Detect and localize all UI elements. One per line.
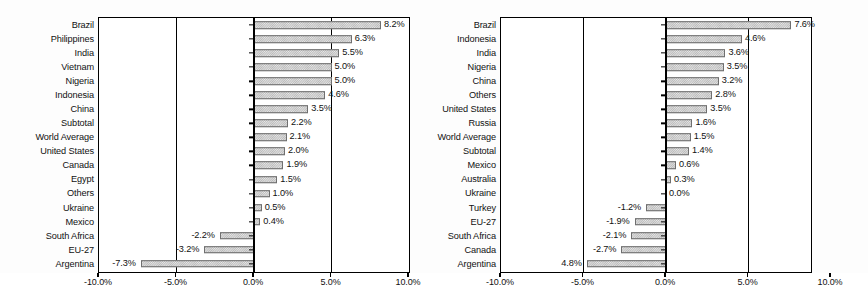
bar-value-label: 2.8% <box>712 91 736 100</box>
bar <box>587 260 666 268</box>
category-tick <box>661 207 666 208</box>
category-label: Brazil <box>408 19 500 33</box>
category-label: Mexico <box>6 215 98 229</box>
category-tick <box>249 38 254 39</box>
x-tick-label: 10.0% <box>817 278 842 287</box>
zero-axis-line <box>665 18 666 272</box>
bar <box>254 49 339 57</box>
bar <box>254 134 287 142</box>
category-tick <box>249 263 254 264</box>
bar-value-label: 6.3% <box>352 34 376 43</box>
category-tick <box>661 52 666 53</box>
bar <box>666 162 676 170</box>
bar <box>254 162 283 170</box>
bar-row: 3.6% <box>501 46 811 60</box>
category-tick <box>661 81 666 82</box>
bar-row: 0.0% <box>501 187 811 201</box>
category-label: Mexico <box>408 159 500 173</box>
category-label: India <box>6 47 98 61</box>
gridline--50 <box>583 18 584 272</box>
bar-value-label: 4.6% <box>325 91 349 100</box>
category-label: EU-27 <box>408 215 500 229</box>
bar <box>666 91 712 99</box>
x-tick-label: 5.0% <box>737 278 757 287</box>
x-tick-label: -10.0% <box>84 278 112 287</box>
bar-value-label: -2.1% <box>603 231 630 240</box>
bar-value-label: 3.2% <box>719 77 743 86</box>
bar-value-label: 4.8% <box>561 259 585 268</box>
category-tick <box>249 67 254 68</box>
category-label: Canada <box>6 159 98 173</box>
bar-row: 3.2% <box>501 74 811 88</box>
bar <box>254 176 277 184</box>
bar <box>666 106 707 114</box>
category-label: Russia <box>408 117 500 131</box>
category-tick <box>661 95 666 96</box>
bar-value-label: -2.7% <box>593 245 620 254</box>
category-label: China <box>408 75 500 89</box>
bar-row: 2.8% <box>501 88 811 102</box>
category-label: Egypt <box>6 173 98 187</box>
category-tick <box>249 249 254 250</box>
category-axis-left: BrazilPhilippinesIndiaVietnamNigeriaIndo… <box>6 19 98 272</box>
bar-row: 0.6% <box>501 158 811 172</box>
category-label: Turkey <box>408 201 500 215</box>
bar-rows-right: 7.6%4.6%3.6%3.5%3.2%2.8%3.5%1.6%1.5%1.4%… <box>501 18 811 272</box>
bar-value-label: 3.5% <box>724 63 748 72</box>
bar-value-label: 0.5% <box>262 203 286 212</box>
x-tick-label: -10.0% <box>486 278 514 287</box>
category-label: United States <box>6 145 98 159</box>
category-tick <box>661 179 666 180</box>
category-label: South Africa <box>6 229 98 243</box>
bar-value-label: 0.4% <box>260 217 284 226</box>
bar-value-label: 1.6% <box>692 119 716 128</box>
bar-row: 1.6% <box>501 116 811 130</box>
category-label: Subtotal <box>408 145 500 159</box>
bar-value-label: 2.1% <box>287 133 311 142</box>
bar-value-label: 3.6% <box>725 49 749 58</box>
category-tick <box>661 67 666 68</box>
category-tick <box>249 165 254 166</box>
category-tick <box>249 207 254 208</box>
bar-row: 3.5% <box>501 102 811 116</box>
category-label: Argentina <box>408 257 500 271</box>
bar <box>666 120 692 128</box>
bar-value-label: 1.5% <box>691 133 715 142</box>
plot-area-left: 8.2%6.3%5.5%5.0%5.0%4.6%3.5%2.2%2.1%2.0%… <box>98 17 410 273</box>
bar <box>254 35 352 43</box>
bar-row: -2.7% <box>501 243 811 257</box>
bar-row: -1.9% <box>501 215 811 229</box>
bar-value-label: 3.5% <box>707 105 731 114</box>
bar <box>254 204 262 212</box>
category-label: Others <box>408 89 500 103</box>
category-tick <box>249 95 254 96</box>
category-tick <box>249 151 254 152</box>
category-tick <box>249 137 254 138</box>
category-tick <box>661 137 666 138</box>
bar <box>254 77 332 85</box>
category-label: China <box>6 103 98 117</box>
bar-row: 1.5% <box>501 130 811 144</box>
x-tick-label: 5.0% <box>320 278 340 287</box>
bar-row: 4.8% <box>501 257 811 271</box>
bar <box>141 260 254 268</box>
bar-row: 4.6% <box>501 32 811 46</box>
category-tick <box>249 24 254 25</box>
category-label: World Average <box>408 131 500 145</box>
category-label: World Average <box>6 131 98 145</box>
category-tick <box>661 221 666 222</box>
bar-value-label: 2.0% <box>285 147 309 156</box>
bar <box>666 77 719 85</box>
x-tick-label: -5.0% <box>571 278 594 287</box>
bar <box>666 35 742 43</box>
bar-value-label: 5.5% <box>339 49 363 58</box>
bar <box>254 106 308 114</box>
bar-row: -1.2% <box>501 201 811 215</box>
bar <box>666 49 725 57</box>
x-tick-label: 10.0% <box>395 278 420 287</box>
bar-row: -2.1% <box>501 229 811 243</box>
bar <box>254 63 332 71</box>
category-label: Canada <box>408 243 500 257</box>
category-tick <box>249 81 254 82</box>
